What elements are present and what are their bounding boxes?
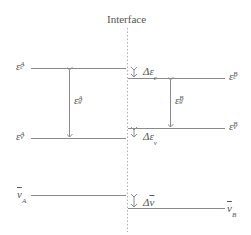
subscript: B: [232, 211, 236, 219]
label-conduction-offset: Δεc: [143, 66, 157, 77]
symbol-v: v: [149, 196, 154, 208]
subscript: v: [154, 139, 157, 147]
label-conduction-band-A: εAc: [16, 61, 25, 72]
interface-label: Interface: [107, 13, 146, 25]
label-valence-offset: Δεv: [143, 131, 157, 142]
label-bandgap-B: εBg: [175, 95, 184, 106]
symbol: Δε: [143, 65, 154, 77]
subscript: c: [154, 74, 157, 82]
label-mean-level-B: vB: [227, 203, 236, 214]
label-conduction-band-B: εBc: [229, 71, 238, 82]
diagram-lines: [0, 0, 251, 235]
label-mean-offset: Δv: [143, 197, 154, 208]
symbol: Δε: [143, 130, 154, 142]
subscript: A: [22, 197, 26, 205]
label-valence-band-B: εBv: [229, 121, 238, 132]
label-mean-level-A: vA: [17, 189, 26, 200]
label-bandgap-A: εAg: [74, 95, 83, 106]
label-valence-band-A: εAv: [16, 131, 25, 142]
band-alignment-diagram: Interface εAc εAv εAg vA εBc εBv εBg vB …: [0, 0, 251, 235]
